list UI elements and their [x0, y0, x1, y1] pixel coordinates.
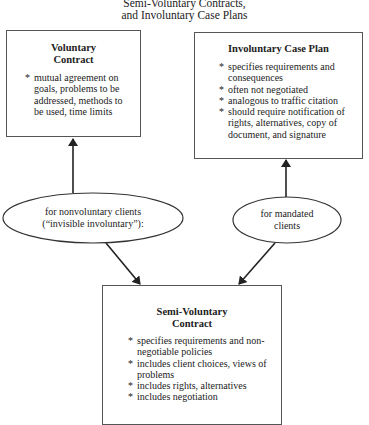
arrow-nonvoluntary-to-semi	[106, 243, 140, 284]
bullet-item: should require notification of rights, a…	[219, 106, 354, 140]
voluntary-contract-title: Voluntary Contract	[17, 42, 130, 66]
bullet-item: includes client choices, views of proble…	[128, 358, 273, 381]
involuntary-case-plan-title: Involuntary Case Plan	[203, 43, 354, 55]
semi-voluntary-contract-box: Semi-Voluntary Contract specifies requir…	[102, 285, 282, 425]
bullet-item: includes rights, alternatives	[128, 380, 273, 391]
involuntary-case-plan-bullets: specifies requirements and consequences …	[219, 61, 354, 140]
bullet-item: often not negotiated	[219, 84, 354, 95]
semi-voluntary-contract-title: Semi-Voluntary Contract	[111, 306, 273, 330]
bullet-item: mutual agreement on goals, problems to b…	[25, 72, 130, 117]
semi-voluntary-contract-bullets: specifies requirements and non-negotiabl…	[128, 335, 273, 403]
bullet-item: specifies requirements and consequences	[219, 61, 354, 84]
bullet-item: specifies requirements and non-negotiabl…	[128, 335, 273, 358]
ellipse-nonvoluntary-label: for nonvoluntary clients (“invisible inv…	[13, 206, 173, 229]
bullet-item: includes negotiation	[128, 391, 273, 402]
arrow-mandated-to-semi	[239, 243, 275, 284]
voluntary-contract-bullets: mutual agreement on goals, problems to b…	[25, 72, 130, 117]
bullet-item: analogous to traffic citation	[219, 95, 354, 106]
involuntary-case-plan-box: Involuntary Case Plan specifies requirem…	[194, 32, 363, 159]
ellipse-mandated-label: for mandated clients	[240, 208, 334, 231]
voluntary-contract-box: Voluntary Contract mutual agreement on g…	[6, 30, 141, 137]
